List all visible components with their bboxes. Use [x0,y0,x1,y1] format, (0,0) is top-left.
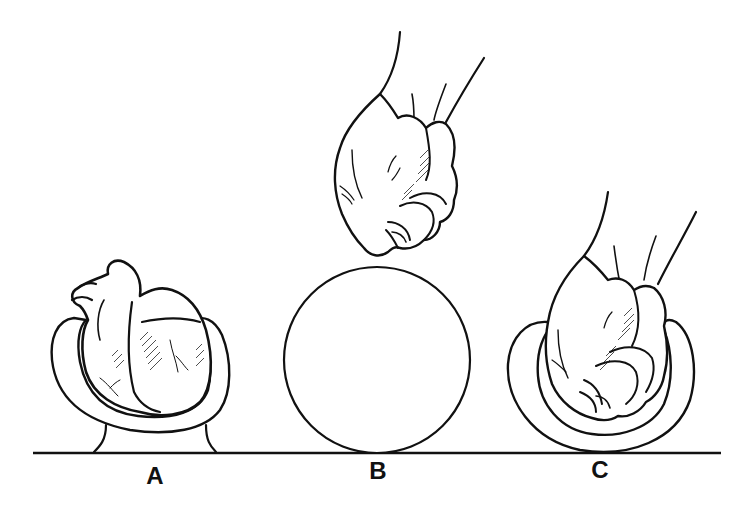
panel-c-fist [508,192,696,452]
panel-label-a: A [146,464,163,488]
sphere-icon [284,267,470,453]
panel-b-sphere [284,267,470,453]
illustration-canvas [0,0,750,506]
panel-label-b: B [369,459,386,483]
panel-label-c: C [591,458,608,482]
panel-a-heart [52,261,230,452]
hand-above-sphere [335,32,484,255]
